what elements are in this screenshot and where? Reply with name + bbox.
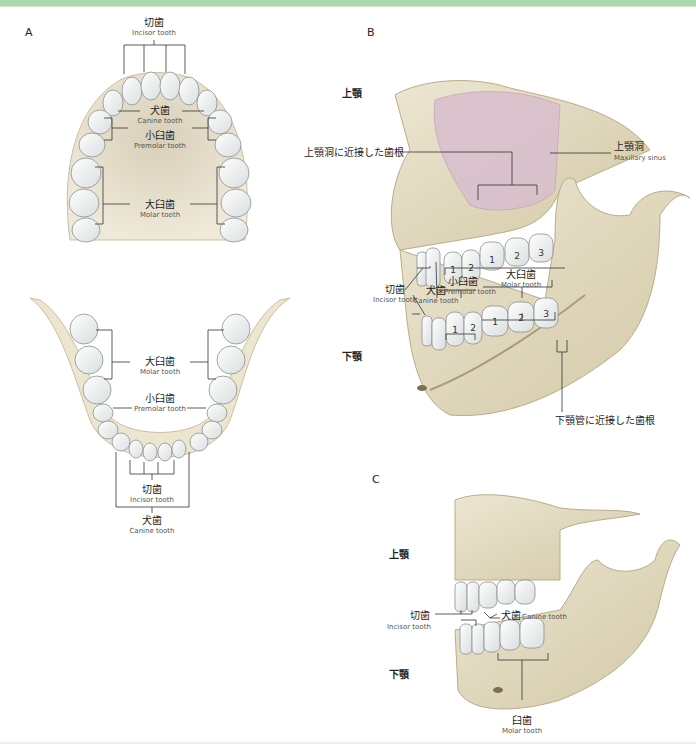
canine-label-jp-c: 犬歯 <box>501 610 521 621</box>
upper-incisor <box>141 72 161 100</box>
tooth-number: 1 <box>489 255 495 265</box>
upper-premolar <box>88 110 112 134</box>
upper-molar <box>221 189 251 217</box>
lower-incisor <box>158 443 172 461</box>
premolar-label-en: Premolar tooth <box>444 288 496 296</box>
maxillary-sinus-label-jp: 上顎洞 <box>614 141 644 152</box>
canine-label-en: Canine tooth <box>413 297 458 305</box>
upper-incisor <box>122 77 142 105</box>
root-near-canal-label: 下顎管に近接した歯根 <box>555 415 655 426</box>
panel-label-a: A <box>25 26 33 39</box>
lower-premolar <box>93 404 113 422</box>
tooth-number: 1 <box>452 325 458 335</box>
upper-molar <box>220 218 248 242</box>
lower-molar <box>209 376 237 404</box>
upper-incisor-label-jp: 切歯 <box>144 17 164 28</box>
molar-label-jp-c: 臼歯 <box>512 715 532 726</box>
maxillary-sinus-label-en: Maxillary sinus <box>614 154 666 162</box>
molar-label-jp: 大臼歯 <box>506 269 536 280</box>
upper-molar <box>71 158 101 188</box>
upper-canine-label-en: Canine tooth <box>137 117 182 125</box>
panel-label-c: C <box>372 473 380 486</box>
upper-premolar-label-jp: 小臼歯 <box>145 130 175 141</box>
upper-molar <box>72 218 100 242</box>
upper-canine-label-jp: 犬歯 <box>150 105 170 116</box>
mandible-region-label-c: 下顎 <box>389 666 409 681</box>
incisor-label-en: Incisor tooth <box>373 296 417 304</box>
lower-molar-label-jp: 大臼歯 <box>145 356 175 367</box>
molar-label-en: Molar tooth <box>501 281 541 289</box>
lower-molar-label-en: Molar tooth <box>140 368 180 376</box>
lower-molar <box>83 376 111 404</box>
upper-molar-label-jp: 大臼歯 <box>145 199 175 210</box>
lateral-skull-view: 1 2 1 2 3 1 2 1 2 3 <box>391 81 690 416</box>
maxilla <box>455 495 640 580</box>
lower-molar <box>217 346 245 374</box>
upper-premolar-label-en: Premolar tooth <box>134 142 186 150</box>
tooth-number: 2 <box>514 251 520 261</box>
lower-canine-label-en: Canine tooth <box>129 527 174 535</box>
lower-incisor <box>129 440 143 458</box>
molar-label-en-c: Molar tooth <box>502 727 542 735</box>
lower-incisor <box>172 440 186 458</box>
lower-incisor-label-jp: 切歯 <box>142 484 162 495</box>
lower-premolar-label-jp: 小臼歯 <box>145 393 175 404</box>
mandible-region-label: 下顎 <box>342 348 362 363</box>
upper-incisor <box>179 77 199 105</box>
canine-label-en-c: Canine tooth <box>522 613 567 621</box>
premolar-label-jp: 小臼歯 <box>448 276 478 287</box>
maxilla-region-label: 上顎 <box>342 85 362 100</box>
maxilla-region-label-c: 上顎 <box>389 546 409 561</box>
lower-canine <box>112 433 130 451</box>
lower-premolar <box>207 404 227 422</box>
incisor-label-jp-c: 切歯 <box>410 610 430 621</box>
incisor-label-en-c: Incisor tooth <box>387 623 431 631</box>
tooth-number: 2 <box>518 313 524 323</box>
upper-premolar <box>79 133 105 157</box>
lower-molar <box>75 346 103 374</box>
tooth-number: 1 <box>450 265 456 275</box>
upper-molar <box>219 158 249 188</box>
upper-molar-label-en: Molar tooth <box>140 211 180 219</box>
lower-incisor-label-en: Incisor tooth <box>130 496 174 504</box>
upper-incisor <box>160 72 180 100</box>
upper-incisor-label-en: Incisor tooth <box>132 29 176 37</box>
tooth-number: 1 <box>492 317 498 327</box>
tooth-number: 2 <box>470 323 476 333</box>
lower-incisor <box>143 443 157 461</box>
lower-canine-label-jp: 犬歯 <box>142 515 162 526</box>
closed-bite-skull-view <box>435 495 680 709</box>
lower-molar <box>70 314 98 344</box>
upper-molar <box>69 189 99 217</box>
anatomy-illustration: 1 2 1 2 3 1 2 1 2 3 <box>0 0 696 744</box>
upper-premolar <box>215 133 241 157</box>
upper-premolar <box>208 110 232 134</box>
incisor-label-jp: 切歯 <box>385 284 405 295</box>
root-near-sinus-label: 上顎洞に近接した歯根 <box>304 147 404 158</box>
lower-premolar-label-en: Premolar tooth <box>134 405 186 413</box>
panel-label-b: B <box>367 26 375 39</box>
tooth-number: 3 <box>538 248 544 258</box>
lower-canine <box>190 433 208 451</box>
tooth-number: 3 <box>543 309 549 319</box>
lower-molar <box>222 314 250 344</box>
